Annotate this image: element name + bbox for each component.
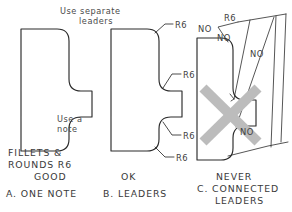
figure-c-no-label-1: NO — [198, 24, 212, 34]
figure-b-header-line2: leaders — [79, 16, 113, 26]
figure-c-no-label-3: NO — [250, 49, 264, 59]
figure-a-caption-line1: FILLETS & — [8, 147, 62, 159]
figure-b-leader-label-3: R6 — [183, 131, 195, 141]
figure-a-note-line1: Use a — [57, 114, 83, 124]
figure-c-no-label-4: NO — [240, 127, 254, 137]
figure-a-note-line2: note — [57, 124, 78, 134]
figure-c-leader-branch-2 — [234, 20, 250, 99]
figure-c-caption-line2: C. CONNECTED — [197, 183, 279, 195]
figure-a-part-outline — [21, 29, 58, 144]
figure-c-leader-branch-4 — [228, 142, 288, 156]
drawing-canvas: Use separate leaders Use a note FILLETS … — [0, 0, 292, 212]
figure-c-caption-line1: NEVER — [216, 171, 252, 183]
figure-b-leader-label-4: R6 — [176, 153, 188, 163]
figure-c-leader-trunk-upper — [238, 14, 286, 22]
figure-c-leader-trunk-right-2 — [271, 16, 276, 147]
figure-b-profile — [111, 29, 182, 151]
figure-b-leader-label-1: R6 — [175, 20, 187, 30]
figure-a-caption-line2: ROUNDS R6 — [8, 159, 72, 171]
figure-a-caption-line4: A. ONE NOTE — [6, 188, 77, 200]
figure-c-no-label-2: NO — [217, 33, 231, 43]
figure-a-caption-line3: GOOD — [34, 171, 67, 183]
figure-c-leader-trunk-right — [281, 14, 286, 142]
figure-b-caption-line1: OK — [121, 171, 136, 183]
figure-b-caption-line2: B. LEADERS — [103, 188, 167, 200]
figure-b-leader-1 — [155, 24, 173, 33]
figure-b-leader-label-2: R6 — [183, 70, 195, 80]
figure-b-header-line1: Use separate — [60, 6, 121, 16]
figure-c-caption-line3: LEADERS — [215, 195, 264, 207]
figure-b-leader-4 — [155, 147, 174, 157]
figure-c-radius-label: R6 — [224, 13, 236, 23]
figure-c-leader-arrow-1 — [230, 94, 234, 101]
figure-b-leader-2 — [163, 74, 181, 88]
figure-b-leader-3 — [163, 122, 181, 135]
